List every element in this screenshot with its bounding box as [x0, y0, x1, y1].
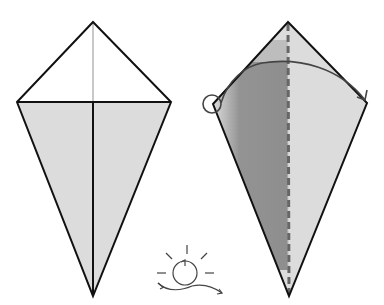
step-1-kite [17, 22, 171, 296]
turn-over-symbol [157, 245, 222, 294]
origami-diagram [0, 0, 384, 305]
shadow-gradient [213, 40, 289, 270]
step-2-kite [203, 22, 367, 296]
kite-upper-triangle [17, 22, 171, 102]
